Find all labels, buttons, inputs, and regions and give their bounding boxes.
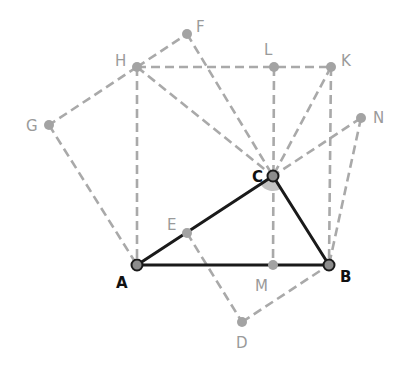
point-b (324, 260, 335, 271)
point-e (182, 228, 192, 238)
dashed-segment-ga (49, 125, 137, 265)
dashed-segment-kb (329, 67, 331, 265)
dashed-segment-nc (273, 118, 361, 176)
point-l (269, 62, 279, 72)
dashed-segment-hg (49, 67, 137, 125)
point-k (326, 62, 336, 72)
point-a (132, 260, 143, 271)
point-h (132, 62, 142, 72)
point-d (237, 317, 247, 327)
dashed-segment-nb (329, 118, 361, 265)
label-f: F (196, 18, 205, 36)
point-n (356, 113, 366, 123)
dashed-segment-kc (273, 67, 331, 176)
point-m (268, 260, 278, 270)
label-c: C (252, 168, 263, 186)
point-g (44, 120, 54, 130)
dashed-segment-lm (273, 67, 274, 265)
label-g: G (26, 117, 38, 135)
dashed-segment-fc (187, 34, 273, 176)
side-ac (137, 176, 273, 265)
point-f (182, 29, 192, 39)
dashed-segment-ed (187, 233, 242, 322)
geometry-figure: ABCEDMHFGLKN (0, 0, 409, 372)
point-c (268, 171, 279, 182)
label-b: B (340, 268, 351, 286)
pythagorean-construction-diagram: ABCEDMHFGLKN (0, 0, 409, 372)
label-k: K (341, 52, 352, 70)
side-cb (273, 176, 329, 265)
label-h: H (115, 52, 126, 70)
label-n: N (373, 109, 384, 127)
dashed-segment-hf (137, 34, 187, 67)
label-l: L (264, 41, 273, 59)
points (44, 29, 366, 327)
label-e: E (167, 216, 176, 234)
label-m: M (255, 277, 268, 295)
triangle-abc (137, 176, 329, 265)
dashed-segment-hc (137, 67, 273, 176)
construction-lines (49, 34, 361, 322)
label-d: D (236, 334, 248, 352)
label-a: A (116, 274, 128, 292)
